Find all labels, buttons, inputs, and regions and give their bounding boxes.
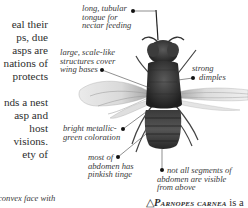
callout-line: nectar feeding	[82, 21, 131, 30]
tongue	[156, 10, 158, 40]
figure-caption: △Parnopes carnea is a	[146, 196, 244, 208]
callout-dot	[160, 168, 164, 172]
thorax	[146, 61, 182, 109]
callout-line: green coloration	[63, 133, 120, 142]
book-page: eal their ps, due asps are nations of pr…	[0, 0, 248, 208]
callout-abdomen-tinge: most of abdomen has pinkish tinge	[88, 153, 134, 179]
left-wing	[79, 81, 150, 118]
callout-dimples: strong dimples	[192, 64, 226, 81]
caption-rest: is a	[227, 197, 244, 208]
callout-line: pinkish tinge	[88, 170, 134, 179]
bottom-left-italic-text: convex face with	[0, 193, 55, 203]
callout-coloration: bright metallic- green coloration	[63, 124, 120, 141]
species-name: Parnopes carnea	[154, 197, 227, 208]
callout-line: from above	[157, 183, 232, 192]
callout-dot	[121, 127, 125, 131]
callout-tongue: long, tubular tongue for nectar feeding	[82, 4, 131, 30]
callout-line: wing bases	[60, 65, 115, 74]
triangle-icon: △	[146, 197, 154, 208]
callout-dot	[131, 9, 135, 13]
callout-segments: not all segments of abdomen are visible …	[167, 166, 232, 192]
callout-wing-bases: large, scale-like structures cover wing …	[60, 48, 115, 74]
right-wing	[178, 88, 248, 111]
callout-line: dimples	[192, 73, 226, 82]
abdomen	[145, 110, 181, 149]
